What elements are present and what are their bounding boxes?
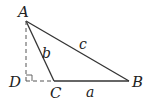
triangle-diagram: A B C D b c a — [0, 0, 147, 107]
point-a-label: A — [16, 3, 29, 21]
point-b-label: B — [131, 73, 143, 91]
point-c-label: C — [50, 84, 62, 102]
side-b-label: b — [42, 45, 51, 61]
right-angle-marker — [26, 75, 32, 81]
side-a-label: a — [86, 84, 94, 100]
point-d-label: D — [8, 73, 21, 91]
side-c-label: c — [79, 36, 87, 52]
